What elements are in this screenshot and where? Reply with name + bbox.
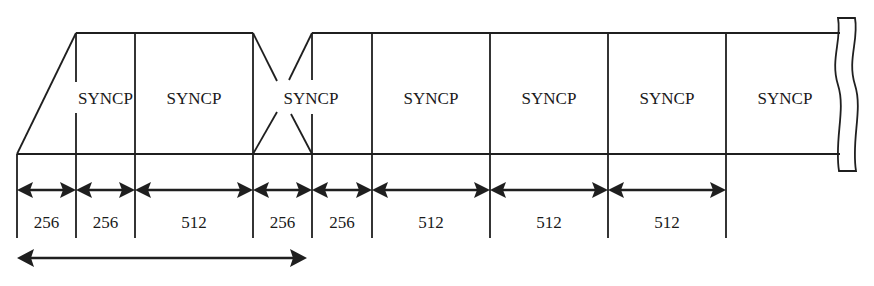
field-label: SYNCP — [758, 89, 813, 108]
duration-label: 256 — [270, 213, 296, 232]
duration-label: 512 — [418, 213, 444, 232]
field-labels: SYNCP SYNCP SYNCP SYNCP SYNCP SYNCP SYNC… — [78, 89, 812, 108]
field-label: SYNCP — [522, 89, 577, 108]
duration-label: 256 — [93, 213, 119, 232]
duration-labels: 256 256 512 256 256 512 512 512 — [34, 213, 680, 232]
break-symbol — [835, 18, 858, 171]
duration-label: 512 — [654, 213, 680, 232]
syncp-frame-diagram: SYNCP SYNCP SYNCP SYNCP SYNCP SYNCP SYNC… — [0, 0, 874, 286]
field-label: SYNCP — [167, 89, 222, 108]
duration-label: 256 — [329, 213, 355, 232]
duration-label: 256 — [34, 213, 60, 232]
field-label: SYNCP — [78, 89, 133, 108]
field-label: SYNCP — [284, 89, 339, 108]
field-label: SYNCP — [404, 89, 459, 108]
duration-label: 512 — [181, 213, 207, 232]
bottom-span-arrow — [17, 249, 307, 267]
duration-label: 512 — [536, 213, 562, 232]
field-label: SYNCP — [640, 89, 695, 108]
duration-ticks — [17, 154, 726, 238]
